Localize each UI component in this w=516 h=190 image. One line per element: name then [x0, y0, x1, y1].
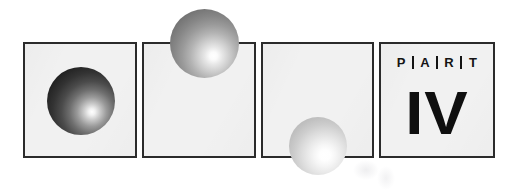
sphere-medium-icon [170, 9, 239, 78]
part-separator-bar [412, 56, 414, 69]
part-letter-t: T [466, 56, 480, 69]
part-number-roman: IV [378, 82, 496, 144]
part-divider-page: P A R T IV [0, 0, 516, 190]
part-letter-r: R [442, 56, 456, 69]
part-letter-p: P [394, 56, 408, 69]
part-letter-a: A [418, 56, 432, 69]
part-word: P A R T [381, 56, 493, 69]
part-separator-bar [460, 56, 462, 69]
sphere-light-icon [289, 117, 347, 175]
scan-artifact [352, 158, 412, 190]
part-separator-bar [436, 56, 438, 69]
panel-part-label: P A R T IV [379, 42, 495, 158]
sphere-dark-icon [47, 67, 115, 135]
